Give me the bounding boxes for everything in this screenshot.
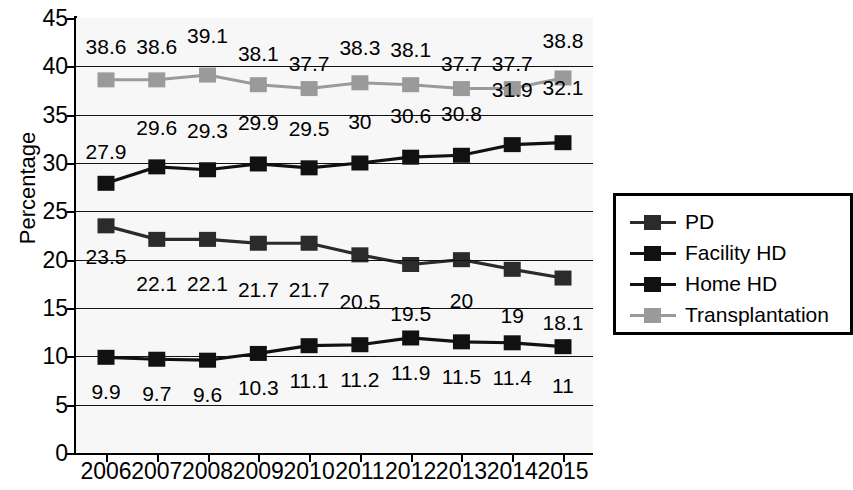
gridline xyxy=(76,163,593,164)
y-axis-tick-mark xyxy=(67,453,76,455)
legend-label: Transplantation xyxy=(685,304,829,325)
data-label: 30 xyxy=(348,111,371,132)
data-label: 38.3 xyxy=(339,37,380,58)
data-label: 11 xyxy=(552,375,574,396)
y-axis-tick-mark xyxy=(67,18,76,20)
y-axis-tick-label: 20 xyxy=(22,249,68,272)
data-label: 9.9 xyxy=(91,381,120,402)
data-label: 29.5 xyxy=(289,118,330,139)
data-point-marker xyxy=(148,352,165,367)
legend-marker-icon xyxy=(644,308,661,323)
legend-marker-icon xyxy=(644,246,661,261)
y-axis-tick-label: 30 xyxy=(22,152,68,175)
legend-label: Home HD xyxy=(685,273,777,294)
data-label: 20 xyxy=(450,290,473,311)
data-point-marker xyxy=(555,135,572,150)
series-home-hd xyxy=(98,330,572,367)
data-label: 30.8 xyxy=(441,103,482,124)
data-point-marker xyxy=(98,176,115,191)
legend-item-transplantation[interactable]: Transplantation xyxy=(630,299,850,330)
y-axis-tick-mark xyxy=(67,66,76,68)
data-label: 11.4 xyxy=(493,367,532,388)
data-label: 21.7 xyxy=(238,279,279,300)
y-axis-tick-label: 10 xyxy=(22,345,68,368)
data-label: 38.1 xyxy=(238,43,279,64)
data-point-marker xyxy=(199,162,216,177)
data-label: 38.6 xyxy=(86,36,127,57)
data-label: 37.7 xyxy=(441,53,482,74)
data-point-marker xyxy=(148,232,165,247)
data-label: 32.1 xyxy=(543,77,584,98)
legend-marker-icon xyxy=(644,277,661,292)
legend-swatch-icon xyxy=(630,243,676,263)
y-axis-tick-mark xyxy=(67,308,76,310)
y-axis-tick-mark xyxy=(67,211,76,213)
legend-swatch-icon xyxy=(630,305,676,325)
data-label: 22.1 xyxy=(187,273,228,294)
gridline xyxy=(76,260,593,261)
y-axis-tick-mark xyxy=(67,163,76,165)
data-label: 39.1 xyxy=(187,25,228,46)
data-label: 38.1 xyxy=(390,39,431,60)
data-label: 9.6 xyxy=(193,384,222,405)
y-axis-tick-label: 15 xyxy=(22,297,68,320)
y-axis-tick-label: 35 xyxy=(22,104,68,127)
y-axis-tick-mark xyxy=(67,356,76,358)
data-point-marker xyxy=(555,339,572,354)
data-point-marker xyxy=(250,77,267,92)
x-axis-tick-label: 2015 xyxy=(528,458,598,484)
data-label: 19.5 xyxy=(390,303,431,324)
data-label: 11.5 xyxy=(442,366,481,387)
data-point-marker xyxy=(504,335,521,350)
data-label: 38.6 xyxy=(136,36,177,57)
data-point-marker xyxy=(199,232,216,247)
legend-swatch-icon xyxy=(630,274,676,294)
data-label: 22.1 xyxy=(136,273,177,294)
data-label: 9.7 xyxy=(142,383,171,404)
data-point-marker xyxy=(301,81,318,96)
data-point-marker xyxy=(351,337,368,352)
y-axis-tick-label: 5 xyxy=(22,394,68,417)
data-point-marker xyxy=(250,346,267,361)
legend-label: PD xyxy=(685,211,714,232)
data-label: 29.9 xyxy=(238,112,279,133)
data-label: 27.9 xyxy=(86,141,127,162)
legend-swatch-icon xyxy=(630,212,676,232)
data-label: 31.9 xyxy=(492,79,533,100)
gridline xyxy=(76,356,593,357)
data-point-marker xyxy=(351,75,368,90)
data-point-marker xyxy=(301,338,318,353)
data-label: 11.1 xyxy=(289,370,328,391)
data-label: 29.3 xyxy=(187,120,228,141)
data-label: 11.2 xyxy=(340,369,379,390)
data-label: 29.6 xyxy=(136,117,177,138)
data-point-marker xyxy=(148,72,165,87)
data-label: 11.9 xyxy=(391,362,430,383)
data-point-marker xyxy=(402,77,419,92)
legend-item-pd[interactable]: PD xyxy=(630,206,850,237)
data-point-marker xyxy=(98,72,115,87)
data-label: 37.7 xyxy=(289,53,330,74)
data-label: 38.8 xyxy=(543,30,584,51)
data-label: 30.6 xyxy=(390,105,431,126)
data-point-marker xyxy=(453,81,470,96)
data-label: 23.5 xyxy=(86,246,127,267)
y-axis-tick-label: 45 xyxy=(22,7,68,30)
data-point-marker xyxy=(453,334,470,349)
y-axis-tick-label: 40 xyxy=(22,55,68,78)
data-point-marker xyxy=(250,236,267,251)
y-axis-tick-mark xyxy=(67,405,76,407)
y-axis-tick-labels: 051015202530354045 xyxy=(18,0,68,490)
y-axis-tick-label: 25 xyxy=(22,200,68,223)
data-point-marker xyxy=(98,218,115,233)
data-point-marker xyxy=(555,271,572,286)
data-point-marker xyxy=(199,68,216,83)
gridline xyxy=(76,211,593,212)
legend-item-home-hd[interactable]: Home HD xyxy=(630,268,850,299)
legend: PDFacility HDHome HDTransplantation xyxy=(613,193,853,335)
data-point-marker xyxy=(199,353,216,368)
data-label: 37.7 xyxy=(492,53,533,74)
data-label: 20.5 xyxy=(339,291,380,312)
legend-item-facility-hd[interactable]: Facility HD xyxy=(630,237,850,268)
